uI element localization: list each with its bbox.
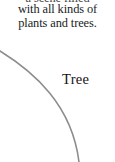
body-text-line-1: with all kinds of xyxy=(0,3,115,16)
tree-caption-label: Tree xyxy=(62,72,89,87)
page-canvas: a scene filled with all kinds of plants … xyxy=(0,0,115,162)
tree-canopy-arc-path xyxy=(0,51,79,162)
body-text-line-2: plants and trees. xyxy=(0,17,115,30)
